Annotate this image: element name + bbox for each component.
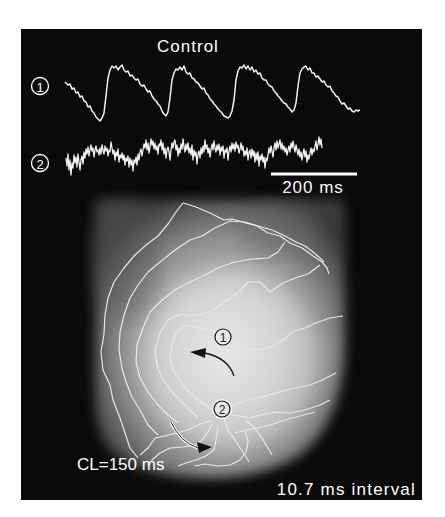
svg-text:1: 1 [36,80,43,95]
isochrone-interval-label: 10.7 ms interval [277,480,416,499]
figure-title: Control [157,37,219,56]
scale-bar-label: 200 ms [282,178,344,197]
site-marker-2: 2 [213,400,232,419]
svg-text:2: 2 [36,157,43,172]
site-marker-1: 1 [215,329,231,345]
figure-panel: Control 1 2 200 ms [0,0,445,517]
cycle-length-label: CL=150 ms [77,455,164,474]
svg-text:2: 2 [219,403,226,417]
heart-activation-map: 1 2 [90,199,345,478]
svg-text:1: 1 [220,331,227,345]
